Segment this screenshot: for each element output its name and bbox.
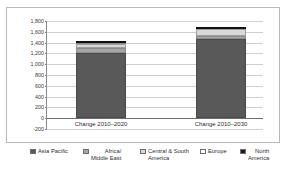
legend-item-central-south-america[interactable]: Central & South America <box>140 148 189 162</box>
y-tick-0: 0 <box>41 115 44 121</box>
y-tick-400: 400 <box>35 94 44 100</box>
bar-segment-africa-middle-east[interactable] <box>196 36 246 39</box>
y-tick-1200: 1,200 <box>31 50 45 56</box>
y-axis-tick-labels: 1,800 1,600 1,400 1,200 1,000 800 600 40… <box>13 8 44 142</box>
bar-segment-asia-pacific[interactable] <box>76 53 126 118</box>
bar-segment-north-america[interactable] <box>196 27 246 29</box>
y-tick-600: 600 <box>35 83 44 89</box>
chart-legend: Asia Pacific Africa/ Middle East Central… <box>6 146 280 174</box>
y-tick-1000: 1,000 <box>31 61 45 67</box>
bar-segment-asia-pacific[interactable] <box>196 39 246 118</box>
x-tick-label-change-2010-2020: Change 2010–2020 <box>53 120 149 128</box>
legend-swatch-africa-middle-east <box>83 149 89 155</box>
legend-item-north-america[interactable]: North America <box>240 148 269 162</box>
legend-swatch-north-america <box>240 149 246 155</box>
bar-segment-africa-middle-east[interactable] <box>76 48 126 53</box>
legend-item-asia-pacific[interactable]: Asia Pacific <box>30 148 68 155</box>
chart-figure: 1,800 1,600 1,400 1,200 1,000 800 600 40… <box>0 0 289 178</box>
x-tick-label-change-2010-2030: Change 2010–2030 <box>173 120 269 128</box>
chart-frame: 1,800 1,600 1,400 1,200 1,000 800 600 40… <box>6 7 280 143</box>
gridline-neg200 <box>47 129 263 130</box>
legend-swatch-central-south-america <box>140 149 146 155</box>
gridline-1800 <box>47 21 263 22</box>
bar-change-2010-2030[interactable] <box>196 28 246 118</box>
legend-label-europe: Europe <box>208 148 227 155</box>
bar-segment-central-south-america[interactable] <box>76 44 126 48</box>
y-tick-200: 200 <box>35 104 44 110</box>
bar-segment-central-south-america[interactable] <box>196 29 246 36</box>
legend-label-central-south-america: Central & South America <box>148 148 189 162</box>
y-tick-800: 800 <box>35 72 44 78</box>
legend-label-asia-pacific: Asia Pacific <box>38 148 68 155</box>
legend-item-africa-middle-east[interactable]: Africa/ Middle East <box>83 148 121 162</box>
legend-label-north-america: North America <box>248 148 269 162</box>
legend-label-africa-middle-east: Africa/ Middle East <box>91 148 121 162</box>
legend-swatch-asia-pacific <box>30 149 36 155</box>
y-tick-1600: 1,600 <box>31 29 45 35</box>
plot-area: Change 2010–2020 Change 2010–2030 <box>46 21 263 129</box>
y-tick-1800: 1,800 <box>31 18 45 24</box>
legend-item-europe[interactable]: Europe <box>200 148 227 155</box>
legend-swatch-europe <box>200 149 206 155</box>
bar-change-2010-2020[interactable] <box>76 42 126 119</box>
bar-segment-north-america[interactable] <box>76 41 126 43</box>
y-tick-1400: 1,400 <box>31 40 45 46</box>
y-tick-neg200: -200 <box>33 126 44 132</box>
